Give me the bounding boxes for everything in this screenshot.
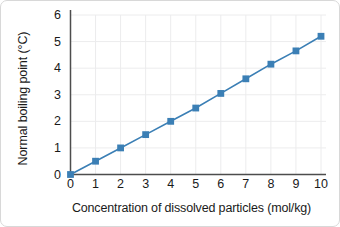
gridlines bbox=[71, 15, 327, 175]
data-point-marker bbox=[167, 118, 174, 125]
axis-spines bbox=[71, 10, 327, 175]
data-point-marker bbox=[117, 145, 124, 152]
data-point-marker bbox=[217, 90, 224, 97]
data-point-marker bbox=[142, 131, 149, 138]
data-point-marker bbox=[242, 75, 249, 82]
data-point-marker bbox=[92, 158, 99, 165]
data-point-marker bbox=[318, 33, 325, 40]
plot-area bbox=[1, 1, 340, 227]
data-point-marker bbox=[293, 47, 300, 54]
data-point-marker bbox=[268, 61, 275, 68]
chart-figure: Normal boiling point (°C) Concentration … bbox=[0, 0, 340, 227]
data-point-marker bbox=[192, 105, 199, 112]
data-point-marker bbox=[67, 171, 74, 178]
